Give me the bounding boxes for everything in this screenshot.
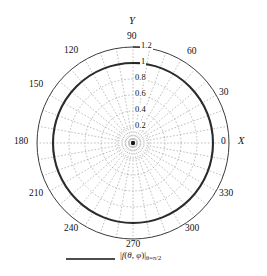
angular-label-120: 120 [64, 46, 78, 56]
legend-entry-label: |f(θ, φ)|θ=π/2 [120, 250, 161, 261]
angular-label-330: 330 [219, 189, 233, 199]
angular-label-210: 210 [29, 189, 43, 199]
angular-label-60: 60 [187, 47, 197, 57]
origin-marker [131, 141, 135, 145]
radial-label-0-8: 0.8 [134, 73, 147, 82]
angular-label-0: 0 [221, 137, 226, 147]
angular-label-300: 300 [185, 224, 199, 234]
radial-label-1: 1 [140, 57, 146, 66]
angular-label-30: 30 [219, 88, 229, 98]
legend-condition-subscript: θ=π/2 [146, 254, 161, 261]
x-axis-label: X [238, 136, 244, 147]
angular-label-270: 270 [126, 240, 140, 250]
angular-label-240: 240 [64, 224, 78, 234]
angular-label-180: 180 [14, 137, 28, 147]
radial-label-0-2: 0.2 [134, 121, 147, 130]
radial-label-0-4: 0.4 [134, 105, 147, 114]
radial-label-0-6: 0.6 [134, 89, 147, 98]
y-axis-label: Y [129, 16, 135, 27]
radial-label-1-2: 1.2 [140, 41, 153, 50]
angular-label-150: 150 [29, 80, 43, 90]
angular-label-90: 90 [127, 32, 137, 42]
